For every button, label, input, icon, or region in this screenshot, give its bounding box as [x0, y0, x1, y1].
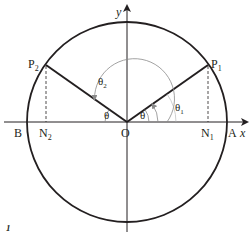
corner-mark: 1: [6, 223, 11, 232]
angle-arc-theta1: [153, 105, 159, 123]
origin-label: O: [121, 126, 130, 140]
point-n2-label: N2: [39, 126, 52, 142]
radius-op2: [46, 65, 127, 122]
angle-arc-theta-right: [145, 110, 149, 123]
theta2-label: θ2: [98, 75, 107, 90]
point-p2-label: P2: [28, 57, 39, 73]
unit-circle-diagram: y x O A B P1 P2 N1 N2 θ θ θ1 θ2 1: [0, 0, 252, 232]
point-b-label: B: [14, 126, 22, 140]
point-n1-label: N1: [201, 126, 214, 142]
point-a-label: A: [228, 126, 237, 140]
theta-left-label: θ: [104, 109, 109, 121]
theta1-label: θ1: [175, 101, 184, 116]
x-axis-label: x: [239, 126, 246, 140]
theta-right-label: θ: [140, 109, 145, 121]
y-axis-label: y: [115, 5, 122, 19]
point-p1-label: P1: [211, 57, 222, 73]
